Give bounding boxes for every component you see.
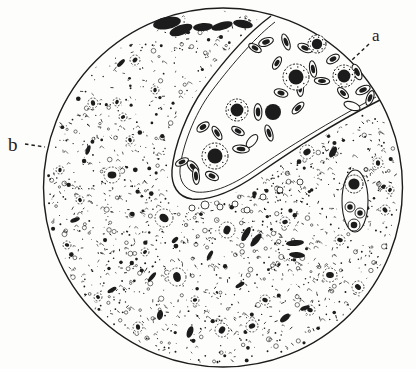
leukocyte-nucleus <box>312 39 322 49</box>
tissue-cell <box>93 292 104 303</box>
tissue-cell <box>372 157 385 170</box>
leukocyte <box>202 143 228 169</box>
leukocyte-nucleus <box>289 70 304 85</box>
tissue-cell <box>351 280 366 295</box>
label-a-leader-line <box>352 44 369 60</box>
leukocyte-nucleus <box>338 70 351 83</box>
tissue-cell <box>379 204 392 217</box>
tissue-cell <box>154 208 175 229</box>
tissue-cell <box>167 267 188 288</box>
leukocyte-nucleus <box>208 149 223 164</box>
clear-ring <box>217 204 223 210</box>
label-a: a <box>372 26 380 45</box>
leukocyte <box>333 65 355 87</box>
book-figure: Figura 87. ab <box>0 0 416 369</box>
tissue-cell <box>62 240 73 251</box>
tissue-cell <box>140 247 151 258</box>
tissue-cell <box>75 195 86 206</box>
erythrocyte <box>254 103 262 120</box>
clear-ring <box>297 179 303 185</box>
dark-round-cell <box>265 104 281 120</box>
tissue-cell <box>112 97 123 108</box>
tissue-cell <box>150 85 161 96</box>
tissue-cell <box>322 267 339 284</box>
leukocyte-nucleus <box>231 104 244 117</box>
label-b: b <box>8 134 18 155</box>
micrograph-field-svg: ab <box>0 0 416 369</box>
tissue-cell <box>129 54 142 67</box>
tissue-cell <box>87 97 100 110</box>
tissue-cell <box>118 112 129 123</box>
clear-ring <box>232 201 238 207</box>
tissue-cell <box>103 166 122 185</box>
tissue-cell <box>334 234 347 247</box>
tissue-cell <box>132 321 145 334</box>
clear-ring <box>201 201 209 209</box>
tissue-cell <box>385 185 396 196</box>
leukocyte <box>226 99 248 121</box>
tissue-cell <box>190 295 201 306</box>
tissue-cell <box>259 294 272 307</box>
tissue-cell <box>214 322 231 339</box>
clear-ring <box>189 205 195 211</box>
leukocyte <box>283 64 309 90</box>
tissue-cell <box>125 135 136 146</box>
tissue-cell <box>218 221 237 240</box>
tissue-cell <box>299 144 316 161</box>
label-b-leader-line <box>25 144 45 147</box>
clear-ring <box>260 194 266 200</box>
tissue-cell <box>304 304 317 317</box>
capillary-vessel <box>342 170 368 232</box>
clear-ring <box>277 187 283 193</box>
tissue-cell <box>245 319 260 334</box>
tissue-cell <box>55 165 66 176</box>
tissue-cell <box>279 216 292 229</box>
cell-nucleus <box>108 172 117 179</box>
clear-ring <box>244 207 250 213</box>
leukocyte <box>308 35 326 53</box>
